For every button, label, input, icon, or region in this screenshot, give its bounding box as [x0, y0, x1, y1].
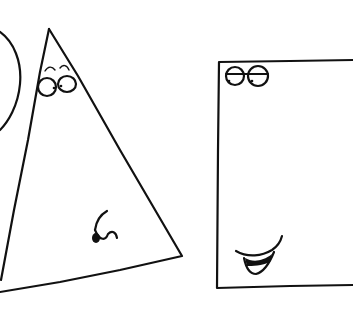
- sketch-canvas: [0, 0, 353, 309]
- mouth-fill: [92, 233, 100, 243]
- circle-outline: [0, 32, 20, 130]
- right-pupil: [60, 85, 63, 88]
- left-eye-icon: [226, 67, 244, 85]
- triangle-character: [0, 29, 182, 292]
- rectangle-character: [217, 60, 353, 288]
- right-eye-icon: [248, 66, 268, 86]
- rectangle-outline: [217, 60, 353, 288]
- left-eyebrow-icon: [45, 67, 55, 71]
- triangle-right-and-base: [0, 29, 182, 292]
- mouth-top: [236, 236, 282, 255]
- circle-character: [0, 32, 20, 130]
- right-eye-icon: [58, 76, 76, 92]
- mouth-stroke: [95, 211, 107, 230]
- right-eyebrow-icon: [60, 66, 69, 70]
- right-pupil: [251, 80, 254, 83]
- left-pupil: [53, 87, 56, 90]
- left-pupil: [228, 80, 231, 83]
- triangle-left-edge: [1, 29, 49, 280]
